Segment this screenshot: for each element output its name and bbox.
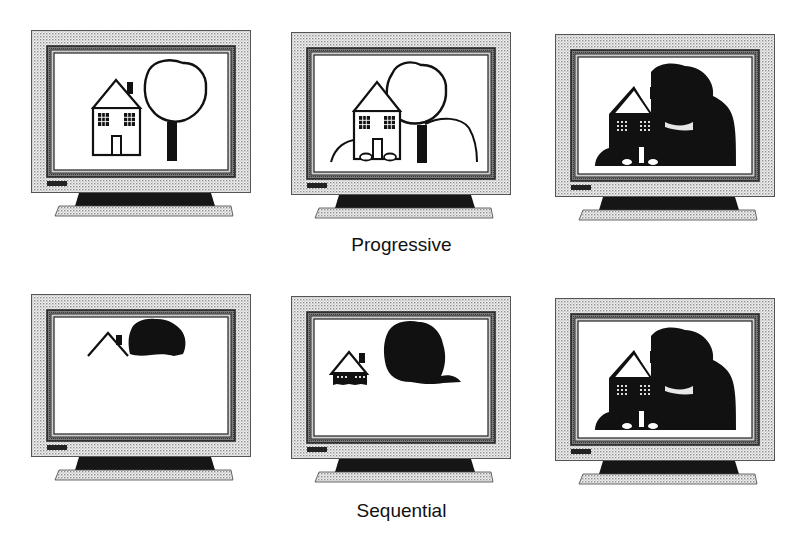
progressive-label: Progressive: [0, 234, 803, 256]
sequential-panel-3: [555, 298, 795, 493]
monitor-illustration: [291, 32, 531, 227]
monitor-illustration: [555, 34, 795, 229]
monitor-illustration: [31, 30, 271, 225]
monitor-illustration: [555, 298, 795, 493]
sequential-label: Sequential: [0, 500, 803, 522]
progressive-panel-1: [31, 30, 271, 225]
monitor-illustration: [291, 296, 531, 491]
sequential-panel-1: [31, 294, 271, 489]
house-upper-fill-icon: [333, 372, 367, 385]
sequential-panel-2: [291, 296, 531, 491]
progressive-panel-3: [555, 34, 795, 229]
progressive-panel-2: [291, 32, 531, 227]
monitor-illustration: [31, 294, 271, 489]
